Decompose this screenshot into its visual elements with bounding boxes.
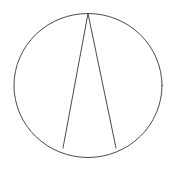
figure-canvas: A circle with two straight chords drawn … <box>0 0 175 169</box>
geometry-diagram <box>0 0 175 169</box>
diagram-background <box>0 0 175 169</box>
